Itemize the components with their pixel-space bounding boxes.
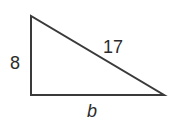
vertical-leg-label: 8: [10, 54, 20, 72]
right-triangle-figure: 8 17 b: [0, 0, 173, 127]
triangle-outline: [31, 16, 164, 95]
hypotenuse-label: 17: [103, 38, 123, 56]
horizontal-leg-label: b: [87, 102, 97, 120]
